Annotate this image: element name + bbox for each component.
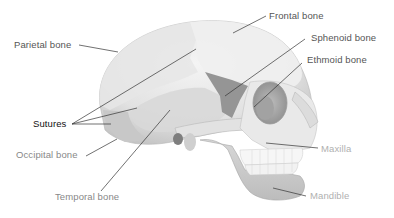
ethmoid-bone [256, 96, 274, 120]
leader-parietal [79, 45, 118, 52]
label-temporal-bone: Temporal bone [55, 192, 119, 202]
lower-teeth [245, 163, 298, 175]
label-frontal-bone: Frontal bone [269, 11, 324, 21]
label-mandible: Mandible [310, 191, 349, 201]
mastoid [184, 133, 196, 151]
label-ethmoid-bone: Ethmoid bone [307, 55, 367, 65]
leader-occipital [86, 139, 117, 156]
label-maxilla: Maxilla [321, 144, 351, 154]
label-sutures: Sutures [33, 119, 66, 129]
upper-teeth [240, 148, 303, 165]
label-parietal-bone: Parietal bone [14, 40, 71, 50]
ear-canal [173, 133, 183, 145]
label-sphenoid-bone: Sphenoid bone [311, 33, 376, 43]
label-occipital-bone: Occipital bone [16, 150, 78, 160]
